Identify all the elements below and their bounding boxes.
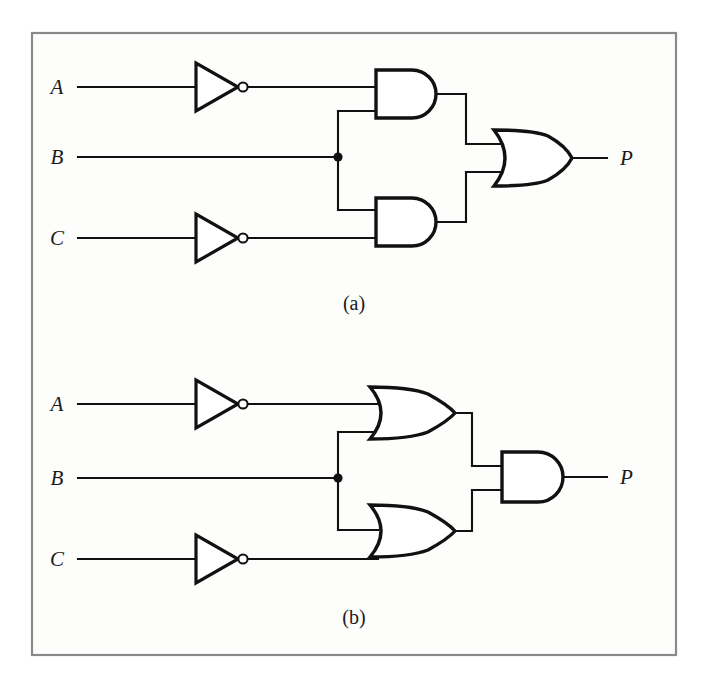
- and-gate-bottom[interactable]: [376, 198, 436, 246]
- figure-frame: [32, 33, 676, 655]
- and-gate-top-body: [376, 70, 436, 118]
- and-gate-output[interactable]: [502, 452, 563, 502]
- label-input-b: B: [51, 145, 64, 169]
- label-input-a: A: [49, 75, 64, 99]
- not-bubble-icon-a: [238, 82, 247, 91]
- label-output-p-b: P: [619, 465, 633, 489]
- and-gate-bottom-body: [376, 198, 436, 246]
- figure-root: A B C P (a): [0, 0, 706, 685]
- label-input-c: C: [50, 226, 65, 250]
- not-bubble-icon-c: [238, 233, 247, 242]
- not-bubble-icon-c-b: [238, 554, 247, 563]
- label-input-c-b: C: [50, 547, 65, 571]
- caption-b: (b): [342, 606, 365, 629]
- not-bubble-icon-a-b: [238, 399, 247, 408]
- label-input-a-b: A: [49, 392, 64, 416]
- and-gate-top[interactable]: [376, 70, 436, 118]
- logic-circuit-figure: A B C P (a): [0, 0, 706, 685]
- caption-a: (a): [343, 292, 365, 315]
- label-output-p: P: [619, 146, 633, 170]
- and-gate-output-body: [502, 452, 563, 502]
- label-input-b-b: B: [51, 466, 64, 490]
